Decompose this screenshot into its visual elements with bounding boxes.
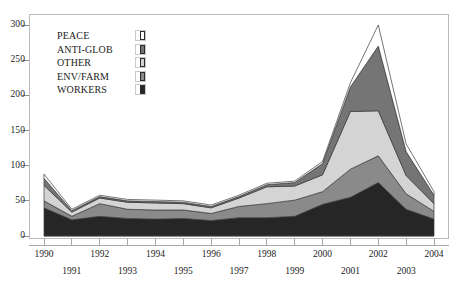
legend-label: WORKERS [57, 84, 135, 95]
legend-swatch [140, 31, 145, 40]
x-axis-label-2004: 2004 [425, 250, 444, 260]
x-tick [44, 238, 45, 245]
legend-label: OTHER [57, 57, 135, 68]
legend-swatch-frame [135, 71, 146, 82]
x-tick [211, 238, 212, 245]
x-tick [183, 238, 184, 245]
x-tick [378, 238, 379, 245]
legend-swatch-frame [135, 44, 146, 55]
x-tick [406, 238, 407, 245]
x-axis-label-1998: 1998 [257, 250, 276, 260]
y-axis-label: 250 [0, 55, 25, 65]
x-axis-label-1992: 1992 [90, 250, 109, 260]
legend-swatch-frame [135, 57, 146, 68]
x-axis-label-1991: 1991 [62, 267, 81, 277]
x-axis-label-1997: 1997 [230, 267, 249, 277]
x-tick [99, 238, 100, 245]
legend-item-workers: WORKERS [57, 83, 146, 97]
x-tick [434, 238, 435, 245]
y-axis-label: 0 [0, 231, 25, 241]
legend-label: ENV/FARM [57, 71, 135, 82]
x-axis-label-1990: 1990 [35, 250, 54, 260]
y-axis-label: 50 [0, 196, 25, 206]
chart-legend: PEACEANTI-GLOBOTHERENV/FARMWORKERS [57, 29, 146, 97]
legend-swatch [140, 45, 145, 54]
legend-swatch-frame [135, 84, 146, 95]
y-axis-label: 300 [0, 20, 25, 30]
x-tick [350, 238, 351, 245]
y-axis-label: 100 [0, 161, 25, 171]
x-tick [127, 238, 128, 245]
x-tick [155, 238, 156, 245]
legend-swatch-frame [135, 30, 146, 41]
legend-item-anti-glob: ANTI-GLOB [57, 43, 146, 57]
legend-label: ANTI-GLOB [57, 44, 135, 55]
x-tick [294, 238, 295, 245]
legend-item-other: OTHER [57, 56, 146, 70]
x-axis-label-1995: 1995 [174, 267, 193, 277]
x-axis-line [29, 245, 449, 246]
y-axis-label: 150 [0, 126, 25, 136]
x-tick [71, 238, 72, 245]
legend-swatch [140, 58, 145, 67]
x-axis-label-1999: 1999 [285, 267, 304, 277]
legend-item-env-farm: ENV/FARM [57, 70, 146, 84]
legend-swatch [140, 72, 145, 81]
x-axis-label-2002: 2002 [369, 250, 388, 260]
x-axis-label-1993: 1993 [118, 267, 137, 277]
x-axis-label-2001: 2001 [341, 267, 360, 277]
legend-label: PEACE [57, 30, 135, 41]
x-tick [239, 238, 240, 245]
y-axis-label: 200 [0, 90, 25, 100]
chart-screenshot: 050100150200250300 199019911992199319941… [0, 0, 461, 297]
x-tick [322, 238, 323, 245]
x-axis-label-1996: 1996 [202, 250, 221, 260]
x-tick [266, 238, 267, 245]
x-axis-label-2000: 2000 [313, 250, 332, 260]
x-axis-label-1994: 1994 [146, 250, 165, 260]
legend-item-peace: PEACE [57, 29, 146, 43]
x-axis-label-2003: 2003 [397, 267, 416, 277]
legend-swatch [140, 85, 145, 94]
